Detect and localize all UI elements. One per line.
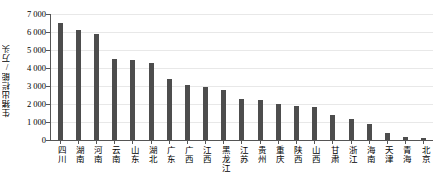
- bar-series: [51, 14, 433, 140]
- bar: [221, 90, 226, 140]
- bar: [203, 87, 208, 140]
- x-tick-slot: [215, 141, 233, 145]
- bar: [330, 115, 335, 140]
- bar: [403, 137, 408, 140]
- x-label-slot: 广西: [178, 146, 196, 192]
- x-axis-tick-mark: [351, 141, 352, 144]
- x-label-slot: 河南: [87, 146, 105, 192]
- bar: [239, 99, 244, 140]
- x-axis-category-label: 山东: [128, 146, 138, 164]
- x-axis-category-label: 贵州: [255, 146, 265, 164]
- bar-slot: [106, 14, 124, 140]
- x-tick-slot: [397, 141, 415, 145]
- x-label-slot: 江西: [197, 146, 215, 192]
- x-axis-tick-mark: [205, 141, 206, 144]
- y-axis-tick-labels: 7 0006 0005 0004 0003 0002 0001 0000: [0, 0, 49, 192]
- bar-slot: [360, 14, 378, 140]
- bar-slot: [160, 14, 178, 140]
- x-axis-category-label: 江苏: [237, 146, 247, 164]
- bar-slot: [124, 14, 142, 140]
- x-tick-slot: [306, 141, 324, 145]
- x-tick-slot: [142, 141, 160, 145]
- x-axis-category-label: 重庆: [274, 146, 284, 164]
- x-axis-category-label: 广东: [164, 146, 174, 164]
- bar: [94, 34, 99, 140]
- plot-area: [51, 14, 433, 140]
- x-label-slot: 青海: [397, 146, 415, 192]
- x-axis-tick-mark: [278, 141, 279, 144]
- x-axis-category-label: 青海: [401, 146, 411, 164]
- bar-slot: [415, 14, 433, 140]
- x-axis-category-label: 山西: [310, 146, 320, 164]
- y-axis-tick-label: 1 000: [27, 117, 46, 127]
- bar: [349, 119, 354, 140]
- x-label-slot: 北京: [415, 146, 433, 192]
- x-tick-slot: [269, 141, 287, 145]
- x-tick-slot: [124, 141, 142, 145]
- bar-slot: [378, 14, 396, 140]
- bar: [294, 106, 299, 140]
- bar-slot: [287, 14, 305, 140]
- bar-slot: [197, 14, 215, 140]
- x-tick-slot: [324, 141, 342, 145]
- x-axis-category-label: 湖北: [146, 146, 156, 164]
- bar: [112, 59, 117, 140]
- x-axis-tick-mark: [423, 141, 424, 144]
- y-axis-tick-label: 5 000: [27, 45, 46, 55]
- x-axis-tick-mark: [114, 141, 115, 144]
- x-axis-category-label: 天津: [383, 146, 393, 164]
- bar: [130, 60, 135, 140]
- x-tick-slot: [51, 141, 69, 145]
- bar-chart: 生猪出栏能/万头 7 0006 0005 0004 0003 0002 0001…: [0, 0, 437, 192]
- x-axis-category-label: 云南: [110, 146, 120, 164]
- x-label-slot: 四川: [51, 146, 69, 192]
- x-axis-tick-mark: [260, 141, 261, 144]
- bar-slot: [178, 14, 196, 140]
- x-axis-tick-mark: [296, 141, 297, 144]
- x-label-slot: 黑龙江: [215, 146, 233, 192]
- y-axis-tick-label: 7 000: [27, 9, 46, 19]
- x-tick-slot: [415, 141, 433, 145]
- x-label-slot: 天津: [378, 146, 396, 192]
- x-label-slot: 重庆: [269, 146, 287, 192]
- x-tick-slot: [342, 141, 360, 145]
- bar-slot: [51, 14, 69, 140]
- x-axis-category-label: 北京: [419, 146, 429, 164]
- x-axis-tick-mark: [387, 141, 388, 144]
- bar-slot: [269, 14, 287, 140]
- x-tick-slot: [360, 141, 378, 145]
- x-tick-slot: [178, 141, 196, 145]
- x-label-slot: 甘肃: [324, 146, 342, 192]
- y-axis-tick-label: 6 000: [27, 27, 46, 37]
- x-axis-category-label: 广西: [183, 146, 193, 164]
- bar: [421, 138, 426, 140]
- bar-slot: [87, 14, 105, 140]
- bar: [149, 63, 154, 140]
- x-label-slot: 陕西: [287, 146, 305, 192]
- bar-slot: [306, 14, 324, 140]
- x-axis-tick-mark: [96, 141, 97, 144]
- bar-slot: [342, 14, 360, 140]
- x-axis-tick-mark: [314, 141, 315, 144]
- x-label-slot: 湖北: [142, 146, 160, 192]
- bar-slot: [251, 14, 269, 140]
- x-axis-tick-mark: [169, 141, 170, 144]
- bar-slot: [233, 14, 251, 140]
- x-tick-slot: [251, 141, 269, 145]
- x-axis-category-label: 浙江: [346, 146, 356, 164]
- bar: [367, 124, 372, 140]
- x-axis-tick-mark: [132, 141, 133, 144]
- x-axis-category-label: 湖南: [74, 146, 84, 164]
- x-label-slot: 云南: [106, 146, 124, 192]
- x-axis-category-label: 海南: [365, 146, 375, 164]
- x-label-slot: 湖南: [69, 146, 87, 192]
- bar: [185, 85, 190, 140]
- x-axis-category-label: 甘肃: [328, 146, 338, 164]
- x-label-slot: 山西: [306, 146, 324, 192]
- bar-slot: [215, 14, 233, 140]
- bar-slot: [69, 14, 87, 140]
- x-axis-tick-mark: [369, 141, 370, 144]
- bar: [276, 104, 281, 140]
- bar: [58, 23, 63, 140]
- x-axis-tick-mark: [78, 141, 79, 144]
